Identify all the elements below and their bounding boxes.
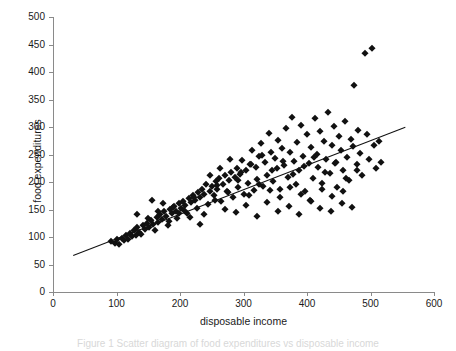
y-tick bbox=[49, 45, 53, 46]
data-point bbox=[353, 167, 359, 173]
data-point bbox=[369, 45, 375, 51]
data-point bbox=[207, 172, 213, 178]
data-point bbox=[227, 156, 233, 162]
data-point bbox=[304, 131, 310, 137]
data-point bbox=[220, 180, 226, 186]
x-tick bbox=[371, 292, 372, 296]
data-point bbox=[283, 125, 289, 131]
data-point bbox=[151, 227, 157, 233]
data-point bbox=[266, 130, 272, 136]
data-point bbox=[317, 128, 323, 134]
data-point bbox=[285, 202, 291, 208]
x-tick bbox=[117, 292, 118, 296]
data-point bbox=[222, 206, 228, 212]
y-tick-label: 50 bbox=[34, 259, 45, 271]
data-point bbox=[134, 211, 140, 217]
data-point bbox=[275, 207, 281, 213]
data-point bbox=[308, 144, 314, 150]
data-point bbox=[264, 199, 270, 205]
data-point bbox=[294, 139, 300, 145]
data-point bbox=[330, 123, 336, 129]
data-point bbox=[309, 175, 315, 181]
y-tick bbox=[49, 100, 53, 101]
y-tick bbox=[49, 292, 53, 293]
data-point bbox=[336, 133, 342, 139]
data-point bbox=[266, 186, 272, 192]
data-point bbox=[363, 130, 369, 136]
data-point bbox=[276, 194, 282, 200]
x-tick bbox=[307, 292, 308, 296]
data-point bbox=[254, 213, 260, 219]
data-point bbox=[264, 172, 270, 178]
y-tick bbox=[49, 237, 53, 238]
data-point bbox=[319, 179, 325, 185]
data-point bbox=[268, 149, 274, 155]
y-tick bbox=[49, 182, 53, 183]
data-point bbox=[373, 164, 379, 170]
data-point bbox=[339, 200, 345, 206]
data-point bbox=[344, 153, 350, 159]
data-point bbox=[296, 211, 302, 217]
x-tick-label: 500 bbox=[362, 298, 379, 310]
scatter-plot-figure: 0100200300400500600 05010015020025030035… bbox=[0, 0, 456, 351]
data-point bbox=[290, 158, 296, 164]
y-tick bbox=[49, 72, 53, 73]
x-axis-label: disposable income bbox=[53, 315, 434, 327]
data-point bbox=[357, 150, 363, 156]
data-point bbox=[245, 192, 251, 198]
data-point bbox=[365, 156, 371, 162]
y-tick-label: 500 bbox=[28, 11, 45, 23]
x-tick-label: 100 bbox=[108, 298, 125, 310]
y-tick-label: 400 bbox=[28, 66, 45, 78]
data-point bbox=[351, 81, 357, 87]
data-point bbox=[370, 141, 376, 147]
data-point bbox=[340, 188, 346, 194]
data-point bbox=[239, 157, 245, 163]
data-point bbox=[332, 160, 338, 166]
data-point bbox=[329, 193, 335, 199]
x-tick bbox=[53, 292, 54, 296]
data-point bbox=[186, 214, 192, 220]
data-point bbox=[287, 149, 293, 155]
data-point bbox=[226, 177, 232, 183]
y-tick-label: 450 bbox=[28, 39, 45, 51]
data-point bbox=[289, 114, 295, 120]
data-point bbox=[201, 211, 207, 217]
x-tick-label: 0 bbox=[50, 298, 56, 310]
y-tick-label: 0 bbox=[39, 286, 45, 298]
data-point bbox=[319, 185, 325, 191]
data-point bbox=[378, 159, 384, 165]
y-axis-line bbox=[53, 17, 54, 292]
data-point bbox=[250, 186, 256, 192]
figure-caption: Figure 1 Scatter diagram of food expendi… bbox=[0, 338, 456, 349]
x-tick bbox=[434, 292, 435, 296]
data-point bbox=[160, 200, 166, 206]
data-point bbox=[300, 153, 306, 159]
plot-area bbox=[53, 17, 434, 292]
x-tick-label: 600 bbox=[426, 298, 443, 310]
data-point bbox=[262, 159, 268, 165]
data-point bbox=[328, 208, 334, 214]
data-point bbox=[279, 145, 285, 151]
data-point bbox=[196, 221, 202, 227]
y-axis-label: food expenditures bbox=[31, 81, 43, 241]
data-point bbox=[321, 138, 327, 144]
data-point bbox=[342, 118, 348, 124]
data-point bbox=[275, 137, 281, 143]
data-point bbox=[362, 50, 368, 56]
data-point bbox=[243, 201, 249, 207]
data-point bbox=[308, 197, 314, 203]
data-point bbox=[243, 167, 249, 173]
data-point bbox=[340, 167, 346, 173]
data-point bbox=[233, 208, 239, 214]
data-point bbox=[217, 164, 223, 170]
data-point bbox=[325, 109, 331, 115]
data-point bbox=[349, 204, 355, 210]
data-point bbox=[258, 140, 264, 146]
y-tick bbox=[49, 127, 53, 128]
data-point bbox=[348, 135, 354, 141]
y-tick bbox=[49, 155, 53, 156]
data-point bbox=[298, 122, 304, 128]
data-point bbox=[355, 127, 361, 133]
y-tick bbox=[49, 265, 53, 266]
